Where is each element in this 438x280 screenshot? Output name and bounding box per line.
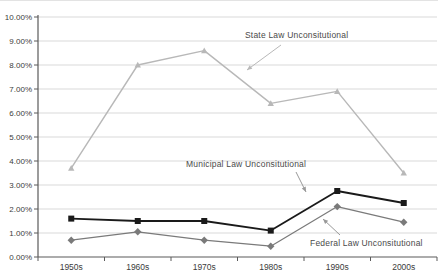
chart: 0.00%1.00%2.00%3.00%4.00%5.00%6.00%7.00%… [0, 0, 438, 280]
municipal-series-marker [401, 200, 407, 206]
x-axis-label: 2000s [392, 262, 415, 272]
y-axis-label: 6.00% [9, 109, 32, 118]
x-axis-label: 1960s [126, 262, 149, 272]
state-series-marker [201, 47, 207, 53]
federal-series-marker [201, 237, 208, 244]
x-axis-label: 1980s [259, 262, 282, 272]
y-axis-label: 8.00% [9, 61, 32, 70]
x-axis-label: 1990s [326, 262, 349, 272]
state-annotation-arrow [247, 65, 252, 70]
y-axis-label: 2.00% [9, 205, 32, 214]
state-series-line [71, 51, 404, 173]
y-axis-label: 5.00% [9, 133, 32, 142]
y-axis-label: 10.00% [5, 13, 32, 22]
state-series-annotation-label: State Law Unconsitutional [245, 30, 348, 40]
municipal-series-marker [334, 188, 340, 194]
municipal-series-marker [135, 218, 141, 224]
municipal-series-marker [68, 216, 74, 222]
y-axis-label: 1.00% [9, 229, 32, 238]
state-annotation-arrow [247, 45, 281, 70]
y-axis-label: 9.00% [9, 37, 32, 46]
federal-series-annotation-label: Federal Law Unconsitutional [310, 238, 423, 248]
y-axis-label: 3.00% [9, 181, 32, 190]
federal-series-marker [267, 243, 274, 250]
federal-series-marker [68, 237, 75, 244]
federal-series-marker [134, 228, 141, 235]
x-axis-label: 1970s [193, 262, 216, 272]
municipal-series-marker [268, 228, 274, 234]
y-axis-label: 4.00% [9, 157, 32, 166]
y-axis-label: 0.00% [9, 253, 32, 262]
x-axis-label: 1950s [60, 262, 83, 272]
y-axis-label: 7.00% [9, 85, 32, 94]
federal-series-marker [400, 219, 407, 226]
municipal-series-annotation-label: Municipal Law Unconsitutional [186, 159, 306, 169]
municipal-series-marker [201, 218, 207, 224]
